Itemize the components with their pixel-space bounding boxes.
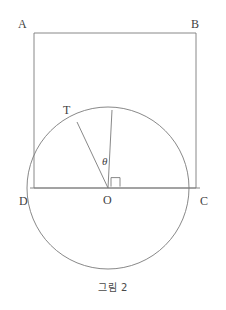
point-label-t: T — [63, 104, 70, 116]
vertex-label-a: A — [18, 18, 27, 30]
center-label-o: O — [103, 194, 112, 206]
figure-caption: 그림 2 — [0, 279, 226, 294]
rectangle-abcd — [34, 33, 196, 188]
angle-label-theta: θ — [102, 156, 107, 167]
geometry-figure: A B C D O T θ 그림 2 — [0, 0, 226, 310]
vertex-label-c: C — [200, 195, 208, 207]
right-angle-marker — [111, 178, 120, 187]
vertex-label-d: D — [19, 195, 28, 207]
radius-vertical — [108, 110, 112, 188]
figure-drawing — [0, 0, 226, 310]
vertex-label-b: B — [191, 18, 199, 30]
